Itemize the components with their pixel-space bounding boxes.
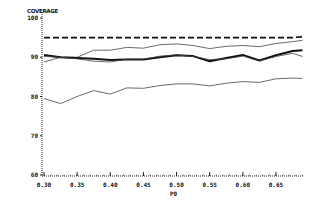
coverage-line-chart: 607080901000.300.350.400.450.500.550.600… bbox=[0, 0, 321, 213]
x-tick-label: 0.40 bbox=[103, 181, 118, 188]
x-axis-label: P0 bbox=[170, 190, 178, 197]
x-tick-label: 0.45 bbox=[136, 181, 151, 188]
y-tick-label: 60 bbox=[31, 171, 39, 178]
y-tick-label: 80 bbox=[31, 93, 39, 100]
y-axis-label: COVERAGE bbox=[27, 8, 58, 14]
x-tick-label: 0.60 bbox=[236, 181, 251, 188]
x-tick-label: 0.55 bbox=[202, 181, 217, 188]
series-line-4 bbox=[44, 78, 303, 104]
series-group bbox=[44, 37, 303, 104]
y-tick-label: 90 bbox=[31, 53, 39, 60]
x-tick-label: 0.30 bbox=[37, 181, 52, 188]
series-line-0 bbox=[44, 37, 303, 38]
x-tick-label: 0.50 bbox=[169, 181, 184, 188]
x-tick-label: 0.65 bbox=[269, 181, 284, 188]
y-tick-label: 100 bbox=[27, 14, 38, 21]
x-tick-label: 0.35 bbox=[70, 181, 85, 188]
y-tick-label: 70 bbox=[31, 132, 39, 139]
